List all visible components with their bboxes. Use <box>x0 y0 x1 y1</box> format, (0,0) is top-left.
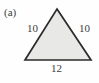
figure-panel: (a) 10 10 12 <box>0 0 99 83</box>
left-side-length-label: 10 <box>27 23 38 34</box>
base-length-label: 12 <box>51 63 62 74</box>
right-side-length-label: 10 <box>79 23 90 34</box>
panel-label: (a) <box>4 7 16 18</box>
triangle-shape <box>25 9 91 60</box>
